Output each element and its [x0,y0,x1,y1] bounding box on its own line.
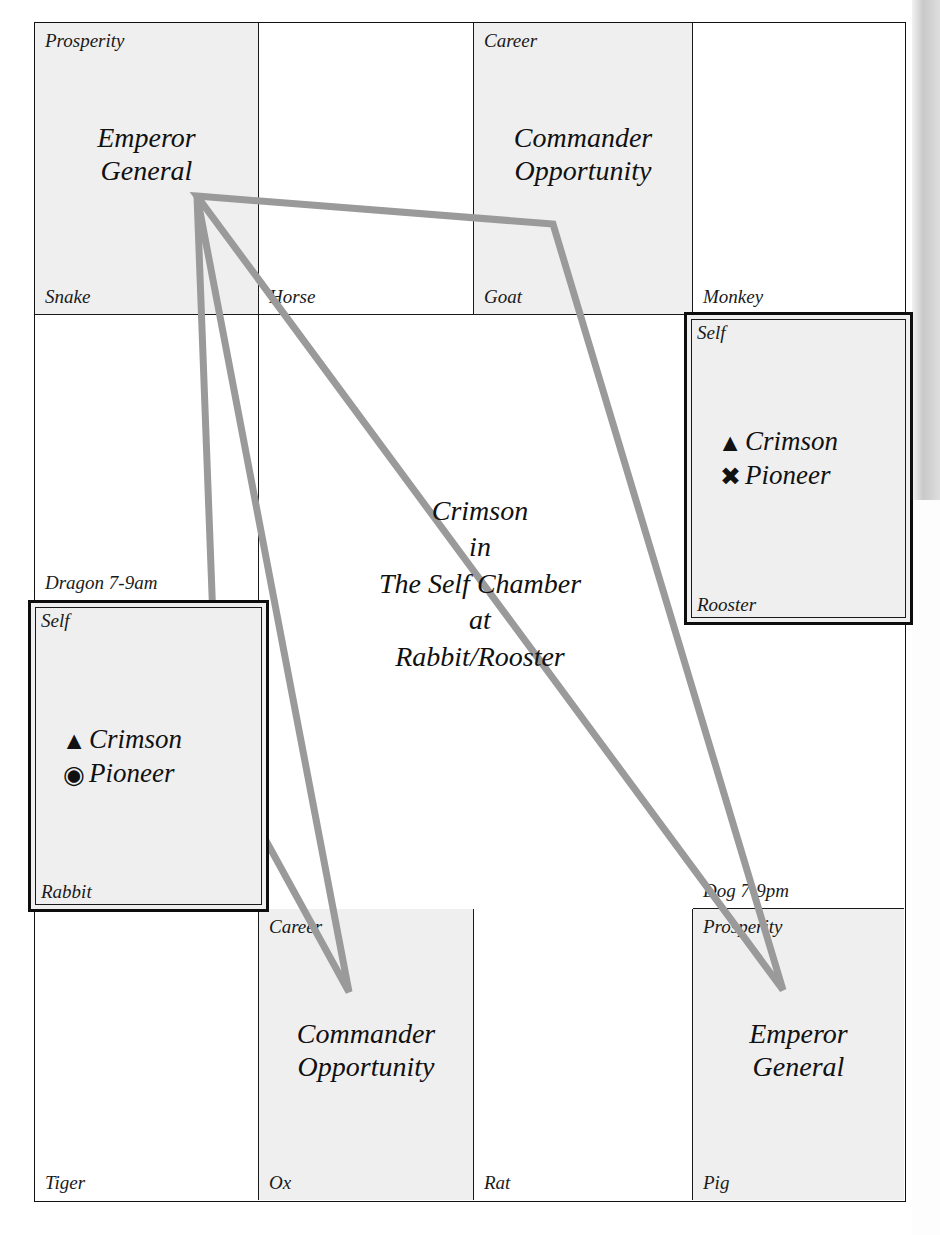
grid-cell-horse[interactable]: Horse [259,23,474,315]
star-label-pioneer: Pioneer [745,460,830,490]
star-label-pioneer: Pioneer [89,758,174,788]
grid-cell-snake[interactable]: ProsperityEmperorGeneralSnake [35,23,259,315]
goat-branch-label: Goat [484,286,522,308]
rooster-palace-label: Self [697,322,726,344]
grid-cell-ox[interactable]: CareerCommanderOpportunityOx [259,909,474,1200]
center-caption-line: at [330,602,630,638]
snake-palace-label: Prosperity [45,30,125,52]
snake-title-line: General [35,154,258,187]
pig-title-line: General [693,1050,904,1083]
rabbit-self-star-box[interactable]: Self ▲Crimson ◉Pioneer Rabbit [28,600,269,912]
horse-branch-label: Horse [269,286,315,308]
center-caption: CrimsoninThe Self ChamberatRabbit/Rooste… [330,493,630,675]
center-caption-line: Rabbit/Rooster [330,639,630,675]
circled-dot-icon: ◉ [59,760,89,791]
grid-cell-rat[interactable]: Rat [474,909,693,1200]
heavy-x-icon: ✖ [715,462,745,493]
star-row-crimson: ▲Crimson [59,723,266,757]
ox-title-line: Opportunity [259,1050,473,1083]
ox-title: CommanderOpportunity [259,1017,473,1083]
monkey-branch-label: Monkey [703,286,763,308]
goat-title-line: Commander [474,121,692,154]
dragon-branch-label: Dragon 7-9am [45,572,157,594]
grid-cell-tiger[interactable]: Tiger [35,909,259,1200]
ox-branch-label: Ox [269,1172,291,1194]
goat-palace-label: Career [484,30,537,52]
star-row-crimson: ▲Crimson [715,425,910,459]
rat-branch-label: Rat [484,1172,510,1194]
rabbit-branch-label: Rabbit [41,881,92,903]
center-caption-line: The Self Chamber [330,566,630,602]
grid-cell-goat[interactable]: CareerCommanderOpportunityGoat [474,23,693,315]
tiger-branch-label: Tiger [45,1172,85,1194]
star-row-pioneer: ◉Pioneer [59,757,266,791]
star-row-pioneer: ✖Pioneer [715,459,910,493]
center-caption-line: in [330,529,630,565]
grid-cell-pig[interactable]: ProsperityEmperorGeneralPig [693,909,904,1200]
dog-branch-label: Dog 7-9pm [703,880,789,902]
rooster-star-list: ▲Crimson ✖Pioneer [687,425,910,492]
rooster-branch-label: Rooster [697,594,756,616]
goat-title-line: Opportunity [474,154,692,187]
snake-branch-label: Snake [45,286,90,308]
star-label-crimson: Crimson [89,724,182,754]
goat-title: CommanderOpportunity [474,121,692,187]
scan-edge-right [912,0,940,500]
grid-cell-monkey[interactable]: Monkey [693,23,904,315]
ox-palace-label: Career [269,916,322,938]
rabbit-star-list: ▲Crimson ◉Pioneer [31,723,266,790]
rabbit-palace-label: Self [41,610,70,632]
pig-title-line: Emperor [693,1017,904,1050]
snake-title-line: Emperor [35,121,258,154]
center-caption-line: Crimson [330,493,630,529]
snake-title: EmperorGeneral [35,121,258,187]
filled-triangle-icon: ▲ [59,726,89,757]
grid-cell-dragon[interactable]: Dragon 7-9am [35,315,259,601]
grid-cell-dog[interactable]: Dog 7-9pm [693,601,904,909]
star-label-crimson: Crimson [745,426,838,456]
pig-palace-label: Prosperity [703,916,783,938]
pig-title: EmperorGeneral [693,1017,904,1083]
rooster-self-star-box[interactable]: Self ▲Crimson ✖Pioneer Rooster [684,312,913,625]
pig-branch-label: Pig [703,1172,729,1194]
filled-triangle-icon: ▲ [715,428,745,459]
ox-title-line: Commander [259,1017,473,1050]
scan-edge-right-lower [912,500,940,1235]
